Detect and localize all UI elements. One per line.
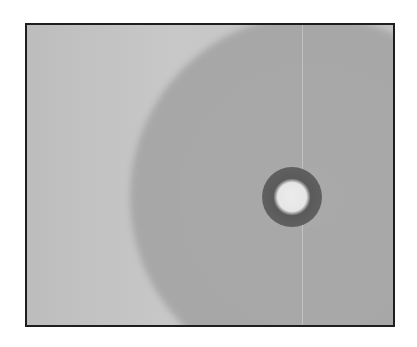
dark-ring-with-bright-center bbox=[262, 167, 322, 227]
image-frame bbox=[25, 23, 395, 327]
